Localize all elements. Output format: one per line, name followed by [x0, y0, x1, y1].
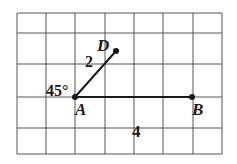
label-b: B: [191, 100, 203, 119]
point-d: [113, 48, 119, 54]
label-a: A: [74, 100, 86, 119]
segment-ad: [75, 51, 116, 97]
label-d: D: [96, 36, 109, 55]
label-ad-length: 2: [85, 53, 93, 70]
label-angle: 45°: [46, 82, 68, 99]
label-ab-length: 4: [132, 122, 141, 141]
geometry-diagram: D 2 45° A B 4: [0, 0, 237, 164]
